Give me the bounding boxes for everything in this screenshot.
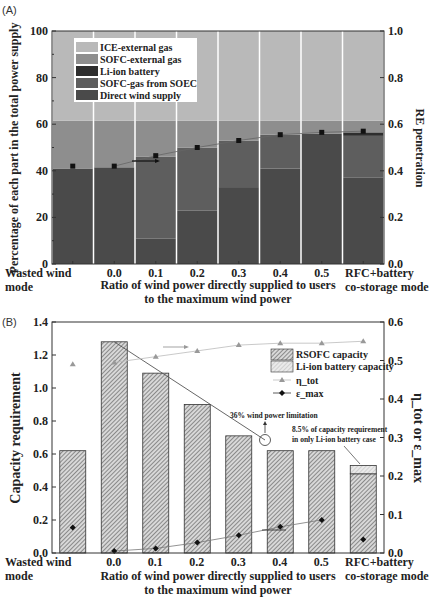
square-marker-icon	[195, 145, 200, 150]
panel-b-legend: RSOFC capacityLi-ion battery capacityη_t…	[271, 349, 394, 399]
annotation-arrow-diag	[344, 446, 360, 464]
panel-b-label: (B)	[2, 316, 17, 328]
bar-segment	[136, 238, 176, 264]
y-right-tick-label: 0.2	[388, 210, 403, 224]
bar-segment	[260, 135, 300, 169]
panel-b-left-axis: 0.00.20.40.60.81.01.21.4	[33, 315, 56, 560]
bar-segment	[267, 451, 293, 553]
legend-swatch	[76, 54, 98, 64]
y-right-tick-label: 0.4	[388, 164, 403, 178]
arrow-head-icon	[263, 421, 267, 425]
legend-label: SOFC-gas from SOEC	[100, 78, 197, 89]
legend-label: RSOFC capacity	[296, 349, 368, 360]
bar-segment	[53, 121, 93, 169]
square-marker-icon	[112, 164, 117, 169]
panel-b-right-axis: 0.00.10.20.30.40.50.6	[380, 315, 403, 560]
y-tick-label: 40	[36, 164, 48, 178]
bar-segment	[101, 342, 127, 553]
square-marker-icon	[319, 130, 324, 135]
x-tick-label-line2: mode	[5, 280, 34, 294]
y-tick-label: 100	[30, 24, 48, 38]
diamond-marker-icon	[279, 390, 285, 396]
y-right-tick-label: 0.1	[388, 508, 403, 522]
y-right-tick-label: 0.3	[388, 431, 403, 445]
panel-b-y-label: Capacity requirement	[8, 372, 23, 504]
y-tick-label: 0.6	[33, 447, 48, 461]
panel-a-right-axis: 0.00.20.40.60.81.0	[380, 24, 403, 271]
x-tick-label-line2: mode	[5, 569, 34, 583]
x-tick-label: Wasted wind	[5, 555, 72, 569]
y-right-tick-label: 0.8	[388, 71, 403, 85]
x-tick-label: 0.5	[314, 555, 329, 569]
bar-segment	[309, 451, 335, 553]
bar-segment	[343, 178, 383, 264]
bar-segment	[302, 31, 342, 121]
triangle-marker-icon	[360, 338, 366, 343]
y-right-tick-label: 0.2	[388, 469, 403, 483]
panel-b-x-label-2: to the maximum wind power	[144, 583, 292, 597]
y-tick-label: 0.2	[33, 513, 48, 527]
square-marker-icon	[236, 138, 241, 143]
bar-segment	[136, 157, 176, 239]
bar-segment	[343, 31, 383, 121]
bar-segment	[184, 405, 210, 554]
y-right-tick-label: 0.4	[388, 392, 403, 406]
square-marker-icon	[153, 153, 158, 158]
x-tick-label: RFC+battery	[345, 555, 414, 569]
x-tick-label: 0.1	[148, 555, 163, 569]
bar-segment	[177, 121, 217, 148]
panel-a-x-label-1: Ratio of wind power directly supplied to…	[100, 278, 336, 292]
panel-a: (A) 020406080100 0.00.20.40.60.81.0 Wast…	[2, 4, 429, 306]
panel-a-y-label: Percentage of each part in the total pow…	[7, 23, 21, 274]
legend-label: ε_max	[296, 388, 324, 399]
legend-label: Direct wind supply	[100, 90, 181, 101]
bar-segment	[136, 121, 176, 157]
y-right-tick-label: 0.6	[388, 117, 403, 131]
figure: (A) 020406080100 0.00.20.40.60.81.0 Wast…	[0, 0, 431, 604]
y-tick-label: 80	[36, 71, 48, 85]
x-tick-label-line2: co-storage mode	[345, 280, 429, 294]
bar-segment	[219, 187, 259, 264]
panel-b-x-label-1: Ratio of wind power directly supplied to…	[100, 569, 336, 583]
square-marker-icon	[361, 129, 366, 134]
y-tick-label: 60	[36, 117, 48, 131]
bar-segment	[219, 121, 259, 141]
bar-segment	[219, 141, 259, 188]
bar-segment	[53, 168, 93, 264]
square-marker-icon	[70, 164, 75, 169]
annotation-li-ion-1: 8.5% of capacity requirement	[292, 425, 388, 434]
bar-segment	[350, 466, 376, 474]
legend-swatch	[76, 66, 98, 76]
bar-segment	[94, 167, 134, 264]
panel-a-label: (A)	[2, 4, 17, 16]
square-marker-icon	[278, 132, 283, 137]
legend-swatch	[271, 349, 293, 360]
y-right-tick-label: 1.0	[388, 24, 403, 38]
triangle-marker-icon	[279, 377, 285, 382]
bar-segment	[94, 121, 134, 168]
bar-segment	[302, 134, 342, 264]
arrow-right-icon	[184, 345, 189, 349]
legend-label: η_tot	[296, 375, 319, 386]
y-tick-label: 0.8	[33, 414, 48, 428]
annotation-wind-limit: 36% wind power limitation	[230, 411, 318, 420]
y-right-tick-label: 0.6	[388, 315, 403, 329]
triangle-marker-icon	[236, 342, 242, 347]
y-tick-label: 20	[36, 210, 48, 224]
triangle-marker-icon	[319, 340, 325, 345]
legend-swatch	[76, 78, 98, 88]
x-tick-label: 0.3	[231, 555, 246, 569]
legend-swatch	[76, 42, 98, 52]
triangle-marker-icon	[277, 340, 283, 345]
bar-segment	[260, 168, 300, 264]
legend-swatch	[76, 90, 98, 100]
bar-segment	[177, 210, 217, 264]
bar-segment	[219, 31, 259, 121]
bar-segment	[60, 451, 86, 553]
panel-b-y-label-right: η_tot or ε_max	[411, 393, 426, 483]
bar-segment	[343, 136, 383, 178]
legend-label: Li-ion battery	[100, 66, 160, 77]
legend-label: Li-ion battery capacity	[296, 361, 394, 372]
x-tick-label: 0.2	[189, 555, 204, 569]
x-tick-label-line2: co-storage mode	[345, 569, 429, 583]
